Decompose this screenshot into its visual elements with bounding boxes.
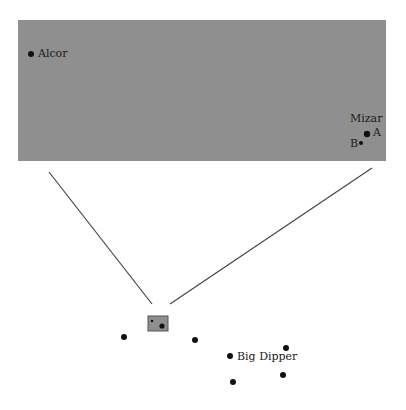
- label-mizar-a: A: [373, 127, 381, 138]
- label-mizar-b: B: [350, 138, 358, 149]
- inset-mizar-icon: [159, 323, 164, 328]
- star-dipper-3-icon: [227, 353, 233, 359]
- zoom-line-right: [170, 168, 372, 304]
- star-dipper-2-icon: [192, 337, 198, 343]
- diagram-graphics: [0, 0, 406, 410]
- label-big-dipper: Big Dipper: [237, 351, 297, 362]
- star-alcor-icon: [28, 51, 34, 57]
- inset-alcor-icon: [151, 320, 154, 323]
- label-mizar: Mizar: [350, 113, 382, 124]
- inset-box: [148, 316, 168, 331]
- star-dipper-6-icon: [230, 379, 236, 385]
- zoom-line-left: [49, 172, 152, 304]
- star-dipper-5-icon: [280, 372, 286, 378]
- label-alcor: Alcor: [38, 48, 68, 59]
- star-mizar-a-icon: [364, 131, 370, 137]
- star-mizar-b-icon: [359, 141, 363, 145]
- star-dipper-1-icon: [121, 334, 127, 340]
